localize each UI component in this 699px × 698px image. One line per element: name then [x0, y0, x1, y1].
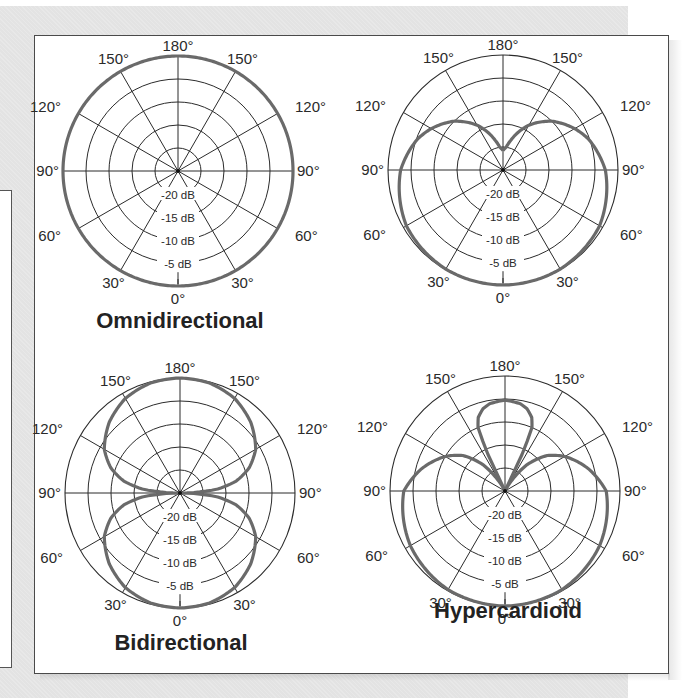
- db-label: -20 dB: [163, 511, 197, 523]
- db-label: -10 dB: [488, 555, 522, 567]
- angle-label: 90°: [361, 161, 384, 178]
- angle-label: 60°: [620, 226, 643, 243]
- polar-plot-bidirectional: -20 dB-15 dB-10 dB-5 dB180°150°150°120°1…: [32, 359, 328, 655]
- angle-label: 60°: [297, 549, 320, 566]
- db-label: -15 dB: [163, 534, 197, 546]
- angle-label: 30°: [104, 596, 127, 613]
- angle-label: 60°: [38, 227, 61, 244]
- angle-label: 30°: [231, 274, 254, 291]
- grid-spoke: [178, 114, 278, 172]
- grid-spoke: [180, 393, 238, 493]
- angle-label: 60°: [295, 227, 318, 244]
- db-label: -20 dB: [488, 509, 522, 521]
- db-label: -5 dB: [166, 580, 194, 592]
- angle-label: 120°: [295, 98, 326, 115]
- db-label: -5 dB: [489, 257, 517, 269]
- angle-label: 0°: [173, 612, 187, 629]
- polar-plot-cardioid: -20 dB-15 dB-10 dB-5 dB180°150°150°120°1…: [355, 36, 651, 306]
- grid-spoke: [178, 71, 236, 171]
- center-dot: [176, 169, 180, 173]
- db-label: -10 dB: [163, 557, 197, 569]
- angle-label: 150°: [229, 372, 260, 389]
- angle-label: 120°: [622, 418, 653, 435]
- angle-label: 60°: [363, 226, 386, 243]
- db-label: -15 dB: [161, 212, 195, 224]
- db-label: -10 dB: [486, 234, 520, 246]
- grid-spoke: [121, 71, 179, 171]
- plot-title: Hypercardioid: [434, 598, 582, 623]
- angle-label: 60°: [365, 547, 388, 564]
- angle-label: 90°: [297, 162, 320, 179]
- angle-label: 0°: [496, 289, 510, 306]
- angle-label: 0°: [171, 290, 185, 307]
- angle-label: 180°: [489, 357, 520, 374]
- angle-label: 150°: [425, 370, 456, 387]
- grid-spoke: [78, 114, 178, 172]
- angle-label: 90°: [299, 484, 322, 501]
- polar-plots: -20 dB-15 dB-10 dB-5 dB180°150°150°120°1…: [0, 0, 699, 698]
- angle-label: 30°: [556, 273, 579, 290]
- center-dot: [501, 168, 505, 172]
- db-label: -10 dB: [161, 235, 195, 247]
- angle-label: 30°: [233, 596, 256, 613]
- angle-label: 90°: [624, 482, 647, 499]
- plot-title: Bidirectional: [114, 630, 247, 655]
- polar-plot-omnidirectional: -20 dB-15 dB-10 dB-5 dB180°150°150°120°1…: [30, 37, 326, 333]
- angle-label: 120°: [357, 418, 388, 435]
- grid-spoke: [123, 393, 181, 493]
- db-label: -15 dB: [488, 532, 522, 544]
- angle-label: 30°: [427, 273, 450, 290]
- angle-label: 120°: [32, 420, 63, 437]
- center-dot: [503, 489, 507, 493]
- angle-label: 90°: [36, 162, 59, 179]
- angle-label: 150°: [554, 370, 585, 387]
- db-label: -5 dB: [491, 578, 519, 590]
- angle-label: 120°: [620, 97, 651, 114]
- angle-label: 150°: [227, 50, 258, 67]
- angle-label: 150°: [552, 49, 583, 66]
- angle-label: 150°: [98, 50, 129, 67]
- angle-label: 120°: [30, 98, 61, 115]
- angle-label: 150°: [100, 372, 131, 389]
- plot-title: Omnidirectional: [96, 308, 263, 333]
- db-label: -15 dB: [486, 211, 520, 223]
- angle-label: 180°: [487, 36, 518, 53]
- angle-label: 90°: [363, 482, 386, 499]
- angle-label: 90°: [622, 161, 645, 178]
- polar-plot-hypercardioid: -20 dB-15 dB-10 dB-5 dB180°150°150°120°1…: [357, 357, 653, 627]
- db-label: -20 dB: [486, 188, 520, 200]
- angle-label: 60°: [40, 549, 63, 566]
- angle-label: 120°: [297, 420, 328, 437]
- db-label: -20 dB: [161, 189, 195, 201]
- angle-label: 60°: [622, 547, 645, 564]
- angle-label: 30°: [102, 274, 125, 291]
- angle-label: 150°: [423, 49, 454, 66]
- angle-label: 120°: [355, 97, 386, 114]
- db-label: -5 dB: [164, 258, 192, 270]
- angle-label: 180°: [162, 37, 193, 54]
- angle-label: 90°: [38, 484, 61, 501]
- center-dot: [178, 491, 182, 495]
- angle-label: 180°: [164, 359, 195, 376]
